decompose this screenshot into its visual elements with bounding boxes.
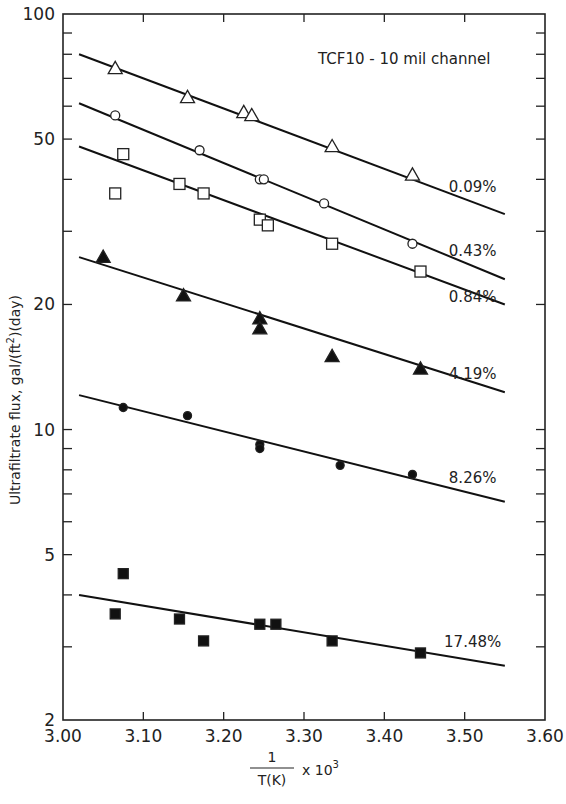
- square-marker-icon: [118, 149, 129, 160]
- circle-marker-icon: [336, 461, 344, 469]
- x-label-denominator: T(K): [257, 772, 287, 788]
- square-marker-icon: [198, 188, 209, 199]
- triangle-marker-icon: [108, 61, 122, 73]
- triangle-marker-icon: [96, 250, 110, 262]
- circle-marker-icon: [111, 111, 120, 120]
- square-marker-icon: [199, 636, 209, 646]
- series-009: [79, 54, 505, 214]
- x-label-numerator: 1: [268, 749, 277, 765]
- x-label-suffix: x 103: [302, 759, 339, 778]
- series-label: 17.48%: [444, 633, 501, 651]
- square-marker-icon: [415, 266, 426, 277]
- series-label: 8.26%: [449, 469, 497, 487]
- arrhenius-flux-chart: 3.003.103.203.303.403.503.6025102050100 …: [0, 0, 566, 804]
- series-043: [79, 103, 505, 279]
- fit-line: [79, 103, 505, 279]
- triangle-marker-icon: [177, 289, 191, 301]
- x-axis-label: 1T(K)x 103: [250, 749, 339, 788]
- series-label: 0.09%: [449, 178, 497, 196]
- square-marker-icon: [110, 609, 120, 619]
- y-tick-label: 20: [33, 294, 55, 314]
- triangle-marker-icon: [405, 168, 419, 180]
- series-826: [79, 395, 505, 502]
- series-label: 0.43%: [449, 242, 497, 260]
- x-tick-label: 3.50: [446, 726, 484, 746]
- data-series: [79, 54, 505, 666]
- fit-line: [79, 54, 505, 214]
- y-tick-label: 100: [23, 4, 55, 24]
- circle-marker-icon: [408, 239, 417, 248]
- circle-marker-icon: [119, 403, 127, 411]
- square-marker-icon: [415, 648, 425, 658]
- circle-marker-icon: [184, 412, 192, 420]
- series-label: 4.19%: [449, 365, 497, 383]
- x-tick-label: 3.40: [365, 726, 403, 746]
- square-marker-icon: [327, 238, 338, 249]
- square-marker-icon: [174, 178, 185, 189]
- square-marker-icon: [174, 614, 184, 624]
- square-marker-icon: [271, 619, 281, 629]
- square-marker-icon: [110, 188, 121, 199]
- series-084: [79, 146, 505, 304]
- chart-title: TCF10 - 10 mil channel: [317, 50, 490, 68]
- series-419: [79, 250, 505, 392]
- circle-marker-icon: [195, 146, 204, 155]
- x-tick-label: 3.30: [285, 726, 323, 746]
- square-marker-icon: [327, 636, 337, 646]
- square-marker-icon: [262, 220, 273, 231]
- y-tick-label: 10: [33, 420, 55, 440]
- circle-marker-icon: [256, 445, 264, 453]
- y-axis-label-text: Ultrafiltrate flux, gal/(ft2)(day): [5, 295, 23, 505]
- triangle-marker-icon: [325, 139, 339, 151]
- x-tick-label: 3.60: [526, 726, 564, 746]
- square-marker-icon: [255, 619, 265, 629]
- y-tick-label: 50: [33, 129, 55, 149]
- fit-line: [79, 257, 505, 392]
- series-label: 0.84%: [449, 288, 497, 306]
- circle-marker-icon: [320, 199, 329, 208]
- y-tick-label: 2: [44, 710, 55, 730]
- triangle-marker-icon: [325, 349, 339, 361]
- y-tick-label: 5: [44, 545, 55, 565]
- x-tick-label: 3.10: [124, 726, 162, 746]
- square-marker-icon: [118, 569, 128, 579]
- fit-line: [79, 595, 505, 666]
- x-tick-label: 3.20: [205, 726, 243, 746]
- circle-marker-icon: [259, 175, 268, 184]
- fit-line: [79, 146, 505, 304]
- series-labels: 0.09%0.43%0.84%4.19%8.26%17.48%: [444, 178, 501, 651]
- series-1748: [79, 569, 505, 666]
- circle-marker-icon: [408, 470, 416, 478]
- fit-line: [79, 395, 505, 502]
- y-axis-label: Ultrafiltrate flux, gal/(ft2)(day): [5, 295, 23, 505]
